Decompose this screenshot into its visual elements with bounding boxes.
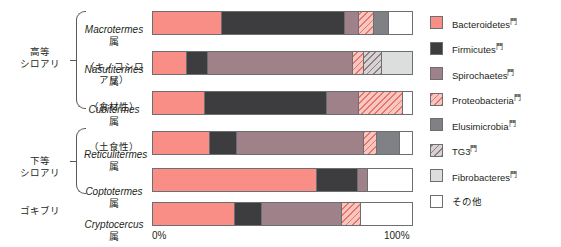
bar-segment-firmicutes[interactable] (205, 92, 327, 114)
bar-segment-other[interactable] (361, 203, 412, 225)
taxon-suffix: 属 (109, 231, 119, 242)
bar-segment-proteobacteria[interactable] (359, 92, 403, 114)
taxon-genus: Cubitermes (88, 104, 139, 115)
group-label-higher-termites: 高等 シロアリ (14, 46, 66, 69)
legend-label-firmicutes: Firmicutes門 (452, 41, 503, 55)
bar-segment-firmicutes[interactable] (317, 169, 357, 191)
bar-segment-firmicutes[interactable] (210, 132, 237, 154)
bar-row[interactable] (152, 202, 413, 226)
legend-item-other[interactable]: その他 (430, 189, 558, 215)
bar-segment-other[interactable] (403, 92, 412, 114)
bar-segment-firmicutes[interactable] (222, 12, 345, 34)
axis-tick-left: 0% (152, 230, 166, 241)
legend-item-spirochaetes[interactable]: Spirochaetes門 (430, 61, 558, 87)
bar-segment-spirochaetes[interactable] (345, 12, 359, 34)
legend-swatch-tg3 (430, 144, 443, 157)
legend-phylum-mark: 門 (507, 69, 514, 76)
legend-label-other: その他 (452, 194, 482, 208)
taxon-genus: Macrotermes (85, 24, 143, 35)
taxon-genus: Coptotermes (85, 186, 142, 197)
taxon-label-coptotermes: Coptotermes属 (84, 173, 144, 211)
legend-item-firmicutes[interactable]: Firmicutes門 (430, 36, 558, 62)
legend-label-tg3: TG3門 (452, 143, 477, 157)
bar-segment-spirochaetes[interactable] (327, 92, 359, 114)
legend-item-fibrobacteres[interactable]: Fibrobacteres門 (430, 163, 558, 189)
bar-row[interactable] (152, 131, 413, 155)
bar-segment-spirochaetes[interactable] (237, 132, 364, 154)
legend-swatch-fibrobacteres (430, 169, 443, 182)
bar-segment-elusimicrobia[interactable] (377, 132, 400, 154)
bar-segment-proteobacteria[interactable] (353, 52, 363, 74)
bar-row[interactable] (152, 51, 413, 75)
bar-segment-bacteroidetes[interactable] (153, 132, 210, 154)
taxon-suffix: 属 (109, 116, 119, 127)
bar-row[interactable] (152, 168, 413, 192)
taxon-genus: Cryptocercus (85, 219, 144, 230)
legend-swatch-bacteroidetes (430, 16, 443, 29)
taxon-suffix: 属 (109, 36, 119, 47)
bar-segment-spirochaetes[interactable] (262, 203, 342, 225)
stacked-bar-chart-figure: 高等 シロアリ 下等 シロアリ ゴキブリ Macrotermes属 （キノコシロ… (0, 0, 561, 247)
taxon-genus: Nasutitermes (85, 64, 144, 75)
axis-tick-right: 100% (384, 230, 410, 241)
legend-phylum-mark: 門 (509, 120, 516, 127)
bar-segment-bacteroidetes[interactable] (153, 52, 187, 74)
bar-segment-spirochaetes[interactable] (358, 169, 368, 191)
bar-segment-bacteroidetes[interactable] (153, 169, 317, 191)
bar-segment-spirochaetes[interactable] (208, 52, 353, 74)
legend-label-proteobacteria: Proteobacteria門 (452, 92, 521, 106)
legend-phylum-mark: 門 (470, 145, 477, 152)
legend-label-elusimicrobia: Elusimicrobia門 (452, 118, 516, 132)
legend-label-fibrobacteres: Fibrobacteres門 (452, 169, 517, 183)
legend-item-elusimicrobia[interactable]: Elusimicrobia門 (430, 112, 558, 138)
legend-phylum-mark: 門 (514, 94, 521, 101)
bar-segment-other[interactable] (389, 12, 412, 34)
bar-segment-bacteroidetes[interactable] (153, 12, 222, 34)
legend-swatch-firmicutes (430, 42, 443, 55)
legend-swatch-spirochaetes (430, 67, 443, 80)
bar-segment-proteobacteria[interactable] (359, 12, 375, 34)
bar-row[interactable] (152, 91, 413, 115)
taxon-label-cryptocercus: Cryptocercus属 (84, 206, 144, 244)
legend-item-tg3[interactable]: TG3門 (430, 138, 558, 164)
bar-segment-other[interactable] (368, 169, 412, 191)
legend-swatch-proteobacteria (430, 93, 443, 106)
group-label-lower-termites: 下等 シロアリ (14, 155, 66, 178)
bar-segment-tg3[interactable] (364, 52, 382, 74)
bar-row[interactable] (152, 11, 413, 35)
taxon-genus: Reticulitermes (84, 149, 147, 160)
legend-label-spirochaetes: Spirochaetes門 (452, 67, 514, 81)
bar-segment-firmicutes[interactable] (235, 203, 262, 225)
legend-phylum-mark: 門 (510, 18, 517, 25)
legend-phylum-mark: 門 (510, 171, 517, 178)
bar-segment-other[interactable] (400, 132, 412, 154)
bar-segment-elusimicrobia[interactable] (374, 12, 388, 34)
legend-item-bacteroidetes[interactable]: Bacteroidetes門 (430, 10, 558, 36)
legend-phylum-mark: 門 (496, 43, 503, 50)
legend-label-bacteroidetes: Bacteroidetes門 (452, 16, 517, 30)
bar-segment-firmicutes[interactable] (187, 52, 208, 74)
legend-item-proteobacteria[interactable]: Proteobacteria門 (430, 87, 558, 113)
taxon-label-reticulitermes: Reticulitermes属 (84, 136, 144, 174)
legend-swatch-elusimicrobia (430, 118, 443, 131)
bar-segment-fibrobacteres[interactable] (382, 52, 412, 74)
taxon-suffix: 属 (109, 161, 119, 172)
legend-swatch-other (430, 195, 443, 208)
bar-segment-bacteroidetes[interactable] (153, 92, 205, 114)
group-label-cockroach: ゴキブリ (10, 205, 70, 217)
bar-segment-proteobacteria[interactable] (364, 132, 377, 154)
taxon-suffix: 属 (109, 76, 119, 87)
bar-segment-proteobacteria[interactable] (342, 203, 361, 225)
legend: Bacteroidetes門Firmicutes門Spirochaetes門Pr… (430, 10, 558, 214)
bar-segment-bacteroidetes[interactable] (153, 203, 235, 225)
